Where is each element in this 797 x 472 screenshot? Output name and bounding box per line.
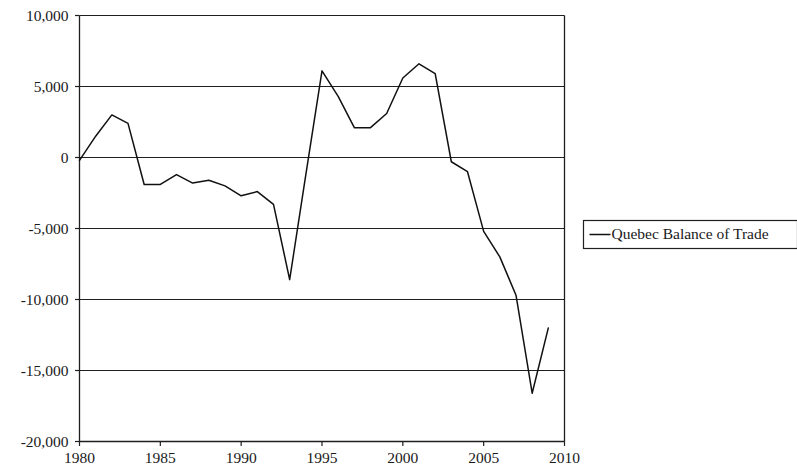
y-tick-label: 10,000 (26, 7, 69, 24)
legend-label: Quebec Balance of Trade (612, 225, 769, 242)
x-tick-label: 1990 (226, 449, 257, 466)
y-tick-label: 5,000 (34, 78, 69, 95)
y-tick-label: 0 (61, 149, 69, 166)
y-tick-label: -20,000 (21, 433, 69, 450)
y-tick-label: -5,000 (28, 220, 68, 237)
y-tick-labels-group: 10,0005,0000-5,000-10,000-15,000-20,000 (21, 7, 69, 450)
x-tick-label: 2010 (549, 449, 580, 466)
x-tick-labels-group: 1980198519901995200020052010 (64, 449, 580, 466)
x-tick-label: 1985 (145, 449, 176, 466)
line-chart: 10,0005,0000-5,000-10,000-15,000-20,000 … (0, 0, 797, 472)
x-tick-label: 1995 (307, 449, 338, 466)
tickmarks-group (75, 16, 565, 447)
x-tick-label: 2005 (468, 449, 499, 466)
gridlines-group (80, 16, 565, 442)
y-tick-label: -15,000 (21, 362, 69, 379)
y-tick-label: -10,000 (21, 291, 69, 308)
x-tick-label: 2000 (387, 449, 418, 466)
x-tick-label: 1980 (64, 449, 95, 466)
chart-figure: 10,0005,0000-5,000-10,000-15,000-20,000 … (0, 0, 797, 472)
chart-legend: Quebec Balance of Trade (584, 221, 797, 249)
